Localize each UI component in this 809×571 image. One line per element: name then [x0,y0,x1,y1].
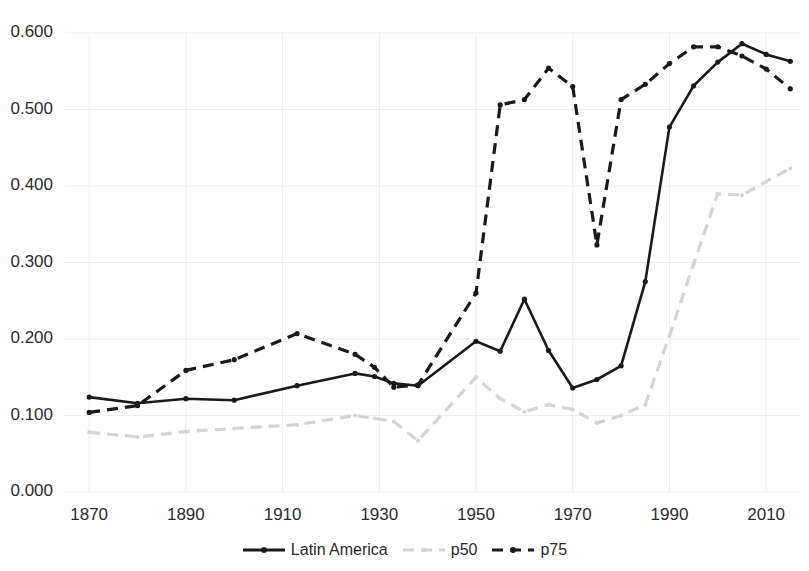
data-point [546,348,551,353]
data-point [739,41,744,46]
data-point [353,414,357,418]
data-point [498,397,502,401]
data-point [764,66,769,71]
data-point [522,97,527,102]
data-point [595,421,599,425]
data-point [546,66,551,71]
x-axis-tick-label: 1950 [436,505,516,525]
data-point [473,291,478,296]
y-axis-tick-label: 0.600 [0,22,53,42]
line-chart: 0.0000.1000.2000.3000.4000.5000.600 1870… [0,0,809,571]
data-point [788,166,792,170]
data-point [764,52,769,57]
data-point [692,262,696,266]
series-layer [87,41,793,443]
data-point [740,193,744,197]
data-point [372,374,377,379]
data-point [764,179,768,183]
x-axis-tick-label: 1970 [533,505,613,525]
y-axis-tick-label: 0.000 [0,481,53,501]
x-axis-tick-label: 1890 [146,505,226,525]
data-point [715,60,720,65]
data-point [415,382,420,387]
x-axis-tick-label: 2010 [726,505,806,525]
data-point [373,417,377,421]
legend-item-p75[interactable]: p75 [491,541,567,559]
data-point [667,334,671,338]
data-point [594,242,599,247]
x-axis-tick-label: 1990 [629,505,709,525]
legend-label: p50 [451,541,478,559]
data-point [739,53,744,58]
data-point [416,439,420,443]
data-point [667,61,672,66]
data-point [570,84,575,89]
data-point [788,86,793,91]
data-point [183,396,188,401]
data-point [392,420,396,424]
data-point [619,97,624,102]
data-point [498,349,503,354]
legend-item-p50[interactable]: p50 [402,541,478,559]
data-point [522,297,527,302]
data-point [87,395,92,400]
data-point [353,352,358,357]
data-point [232,357,237,362]
data-point [716,192,720,196]
data-point [232,427,236,431]
plot-area [0,0,809,571]
data-point [715,44,720,49]
data-point [691,83,696,88]
data-point [87,410,92,415]
data-point [643,279,648,284]
y-axis-tick-label: 0.400 [0,175,53,195]
data-point [183,368,188,373]
legend-label: p75 [540,541,567,559]
data-point [547,403,551,407]
data-point [619,414,623,418]
y-axis-tick-label: 0.100 [0,405,53,425]
data-point [391,385,396,390]
data-point [788,59,793,64]
data-point [135,403,140,408]
data-point [643,82,648,87]
x-axis-tick-label: 1930 [339,505,419,525]
y-axis-tick-label: 0.500 [0,99,53,119]
data-point [295,423,299,427]
series-p50 [87,166,792,442]
chart-legend: Latin Americap50p75 [0,535,809,565]
data-point [295,383,300,388]
data-point [522,410,526,414]
data-point [474,375,478,379]
data-point [295,331,300,336]
data-point [87,430,91,434]
data-point [691,44,696,49]
data-point [232,398,237,403]
data-point [619,363,624,368]
data-point [136,435,140,439]
legend-item-latin-america[interactable]: Latin America [242,541,388,559]
legend-label: Latin America [291,541,388,559]
series-p75 [87,44,793,415]
y-axis-tick-label: 0.200 [0,328,53,348]
data-point [643,403,647,407]
y-axis-tick-label: 0.300 [0,252,53,272]
solid-line-marker-icon [242,544,286,556]
data-point [473,339,478,344]
data-point [667,125,672,130]
data-point [184,430,188,434]
data-point [570,385,575,390]
data-point [571,407,575,411]
data-point [594,377,599,382]
data-point [372,365,377,370]
dashed-line-light-icon [402,544,446,556]
x-axis-tick-label: 1910 [243,505,323,525]
x-axis-tick-label: 1870 [49,505,129,525]
data-point [498,102,503,107]
dashed-line-dark-icon [491,544,535,556]
data-point [353,371,358,376]
